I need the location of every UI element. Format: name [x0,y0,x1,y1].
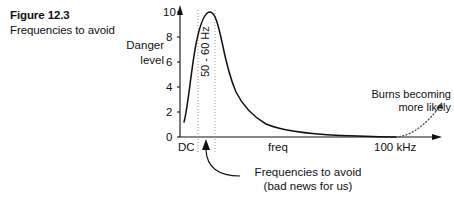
x-axis-title: freq [268,140,288,154]
avoid-annotation: Frequencies to avoid (bad news for us) [228,165,388,193]
frequency-band-label: 50 - 60 Hz [198,26,212,77]
y-axis [177,5,183,137]
figure-container: Figure 12.3 Frequencies to avoid [0,0,454,198]
y-tick-label-6: 6 [166,55,172,69]
burns-annotation: Burns becoming more likely [369,88,451,114]
y-axis-title-line2: level [140,54,164,66]
avoid-annotation-line2: (bad news for us) [264,180,353,192]
y-axis-arrowhead [177,5,183,15]
burns-annotation-line1: Burns becoming [372,88,452,100]
y-axis-title-line1: Danger [126,39,164,51]
danger-level-curve [184,12,396,137]
y-tick-label-2: 2 [166,105,172,119]
avoid-arrowhead [202,139,210,150]
avoid-annotation-line1: Frequencies to avoid [255,166,362,178]
x-axis-arrowhead [432,134,442,140]
y-tick-label-8: 8 [166,30,172,44]
y-tick-label-0: 0 [166,130,172,144]
y-tick-label-4: 4 [166,80,172,94]
x-tick-label-100khz: 100 kHz [374,140,416,154]
y-tick-label-10: 10 [163,5,176,19]
x-tick-label-dc: DC [178,140,195,154]
burns-annotation-line2: more likely [398,101,451,113]
y-axis-title: Danger level [108,38,164,68]
